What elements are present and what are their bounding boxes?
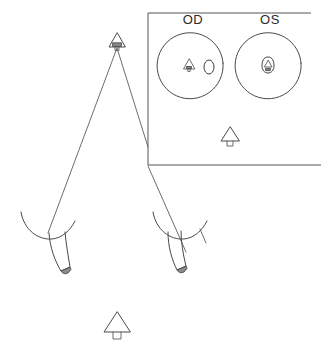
os-dome-marker (262, 57, 274, 73)
bottom-tree-marker (104, 312, 130, 339)
od-fundus-circle (157, 33, 223, 99)
right-arc-tick-mark (200, 229, 206, 243)
panel-tree-canopy (221, 127, 239, 141)
right-pendant-tip (177, 266, 187, 273)
ophthalmic-sketch-canvas: OD OS (0, 0, 321, 343)
left-pendant-body (49, 232, 70, 271)
od-tree-shade (187, 67, 192, 69)
left-pendant-tip (61, 267, 71, 274)
panel-tree-trunk (227, 141, 233, 146)
os-fundus-circle (235, 33, 301, 99)
right-arc (153, 212, 207, 239)
left-arc (21, 212, 75, 239)
bottom-tree-trunk (113, 332, 121, 339)
right-arc-pendant (153, 212, 207, 273)
eye-examination-panel (148, 13, 321, 165)
od-tree-marker (184, 59, 195, 71)
od-oval-lesion (204, 60, 214, 74)
eye-label-os: OS (260, 12, 280, 27)
right-sight-line (117, 48, 148, 147)
apex-tree-shade (113, 43, 122, 47)
bottom-tree-canopy (104, 312, 130, 332)
os-dome-shade (266, 68, 271, 70)
left-arc-pendant (21, 212, 75, 274)
left-sight-line (48, 48, 117, 233)
panel-tree-marker (221, 127, 239, 146)
sight-lines-group (48, 48, 186, 252)
eye-label-od: OD (183, 12, 204, 27)
